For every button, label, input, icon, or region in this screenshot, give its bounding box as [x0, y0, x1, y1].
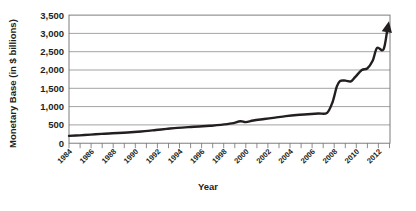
x-axis-title: Year — [198, 181, 218, 192]
monetary-base-line-chart: Monetary Base (in $ billions) 3,500 3,00… — [0, 0, 416, 211]
y-tick-label-3500: 3,500 — [40, 10, 64, 21]
y-tick-label-1500: 1,500 — [40, 83, 64, 94]
y-tick-label-2500: 2,500 — [40, 46, 64, 57]
y-tick-label-500: 500 — [48, 119, 64, 130]
y-tick-label-2000: 2,000 — [40, 64, 64, 75]
y-axis-title: Monetary Base (in $ billions) — [7, 19, 18, 148]
y-tick-label-1000: 1,000 — [40, 101, 64, 112]
y-tick-label-0: 0 — [59, 138, 64, 149]
y-tick-label-3000: 3,000 — [40, 28, 64, 39]
